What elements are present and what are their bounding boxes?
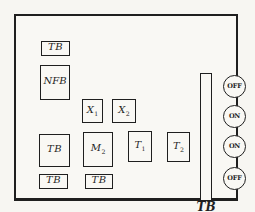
component-box-m2: M2 [83, 132, 113, 167]
component-box-tb-bottom-1: TB [39, 174, 68, 189]
component-label: NFB [43, 76, 66, 88]
component-box-tb-top: TB [41, 41, 70, 56]
terminal-strip-bar [200, 73, 212, 201]
push-button-label: OFF [227, 175, 241, 182]
component-label: TB [91, 175, 106, 187]
component-label: X1 [87, 105, 99, 117]
component-label: M2 [91, 143, 106, 155]
component-label: T1 [134, 140, 145, 152]
terminal-strip-label: TB [192, 201, 220, 212]
push-button-off-bottom: OFF [223, 167, 246, 190]
component-box-tb-bottom-2: TB [85, 174, 113, 189]
panel-layout-figure: TB NFB X1 X2 TB M2 T1 T2 TB TB T [0, 0, 255, 212]
component-label: X2 [118, 105, 130, 117]
component-box-nfb: NFB [40, 65, 70, 100]
component-label: TB [48, 42, 63, 54]
push-button-label: ON [229, 113, 240, 120]
push-button-label: OFF [227, 83, 241, 90]
component-label: TB [47, 144, 62, 156]
component-label: TB [46, 175, 61, 187]
push-button-label: ON [229, 143, 240, 150]
push-button-on-upper: ON [223, 105, 246, 128]
push-button-off-top: OFF [223, 75, 246, 98]
component-box-x1: X1 [82, 99, 103, 123]
component-label: T2 [173, 141, 184, 153]
component-box-t1: T1 [128, 131, 152, 162]
component-box-tb-mid: TB [39, 134, 70, 167]
component-box-x2: X2 [112, 99, 136, 123]
push-button-on-lower: ON [223, 135, 246, 158]
panel-outline: TB NFB X1 X2 TB M2 T1 T2 TB TB T [14, 14, 238, 201]
component-box-t2: T2 [167, 132, 190, 162]
